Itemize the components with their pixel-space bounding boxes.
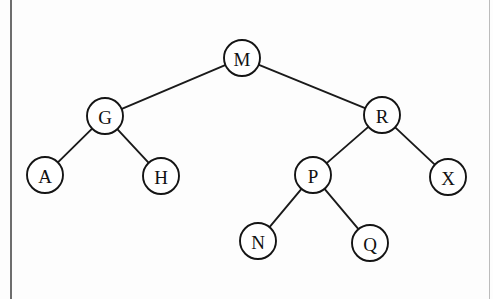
node-label-n: N xyxy=(251,232,265,253)
page-canvas: MGRAHPXNQ xyxy=(0,0,493,299)
tree-svg: MGRAHPXNQ xyxy=(0,0,493,299)
tree-edge-r-p xyxy=(326,126,369,164)
tree-node-p[interactable]: P xyxy=(295,157,331,193)
node-label-q: Q xyxy=(363,234,377,255)
tree-node-h[interactable]: H xyxy=(143,158,179,194)
node-label-a: A xyxy=(38,166,52,187)
node-label-m: M xyxy=(234,49,251,70)
node-label-r: R xyxy=(376,106,389,127)
tree-edge-m-r xyxy=(258,64,367,108)
tree-edge-g-a xyxy=(57,128,93,163)
tree-node-g[interactable]: G xyxy=(87,98,123,134)
tree-node-r[interactable]: R xyxy=(364,97,400,133)
tree-edge-p-q xyxy=(324,188,359,230)
tree-node-q[interactable]: Q xyxy=(352,225,388,261)
tree-edge-r-x xyxy=(394,127,435,166)
node-label-g: G xyxy=(98,107,112,128)
tree-node-x[interactable]: X xyxy=(430,159,466,195)
tree-edge-g-h xyxy=(117,128,150,163)
tree-edge-p-n xyxy=(269,188,302,228)
tree-node-m[interactable]: M xyxy=(224,40,260,76)
tree-node-a[interactable]: A xyxy=(27,157,63,193)
tree-node-n[interactable]: N xyxy=(240,223,276,259)
tree-edges-group xyxy=(57,64,435,230)
tree-nodes-group: MGRAHPXNQ xyxy=(27,40,466,261)
node-label-p: P xyxy=(308,166,319,187)
binary-search-tree-figure: MGRAHPXNQ xyxy=(0,0,493,299)
tree-edge-m-g xyxy=(121,65,227,110)
node-label-x: X xyxy=(441,168,455,189)
node-label-h: H xyxy=(154,167,168,188)
